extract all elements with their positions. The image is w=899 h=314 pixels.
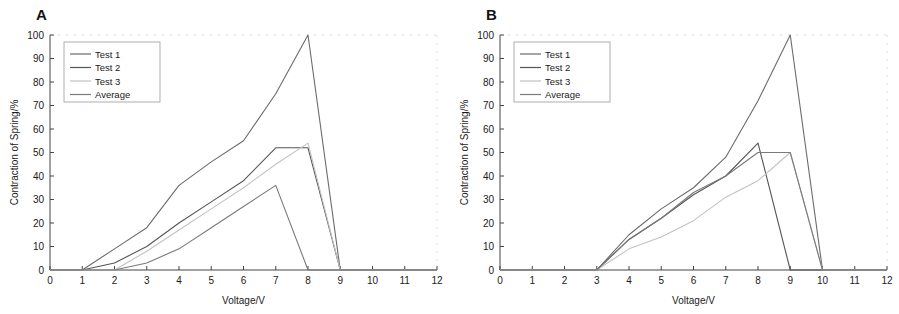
y-tick-label: 0 <box>488 265 494 276</box>
x-tick-label: 7 <box>723 275 729 286</box>
y-tick-label: 80 <box>33 77 45 88</box>
x-tick-label: 11 <box>850 275 861 286</box>
legend-label-test-3: Test 3 <box>545 76 570 87</box>
series-line-average <box>50 185 437 270</box>
y-tick-label: 80 <box>483 77 495 88</box>
y-tick-label: 10 <box>33 241 45 252</box>
y-tick-label: 0 <box>38 265 44 276</box>
y-tick-label: 70 <box>483 100 495 111</box>
x-tick-label: 8 <box>305 275 311 286</box>
x-tick-label: 9 <box>787 275 793 286</box>
y-axis-title: Contraction of Spring/% <box>459 100 470 206</box>
x-tick-label: 1 <box>529 275 535 286</box>
x-tick-label: 6 <box>241 275 247 286</box>
x-tick-label: 7 <box>273 275 279 286</box>
y-tick-label: 50 <box>33 147 45 158</box>
y-tick-label: 100 <box>27 30 44 41</box>
x-axis-title: Voltage/V <box>672 295 715 306</box>
y-axis-title: Contraction of Spring/% <box>9 100 20 206</box>
panel-b-plot: 01234567891011120102030405060708090100Vo… <box>450 0 899 314</box>
y-tick-label: 60 <box>483 124 495 135</box>
x-tick-label: 10 <box>817 275 829 286</box>
x-tick-label: 9 <box>337 275 343 286</box>
y-tick-label: 10 <box>483 241 495 252</box>
y-tick-label: 50 <box>483 147 495 158</box>
x-tick-label: 3 <box>594 275 600 286</box>
y-tick-label: 20 <box>33 218 45 229</box>
y-tick-label: 30 <box>33 194 45 205</box>
y-tick-label: 20 <box>483 218 495 229</box>
figure-container: A 01234567891011120102030405060708090100… <box>0 0 899 314</box>
x-tick-label: 12 <box>881 275 893 286</box>
legend-label-test-3: Test 3 <box>95 76 120 87</box>
panel-a-plot: 01234567891011120102030405060708090100Vo… <box>0 0 449 314</box>
y-tick-label: 60 <box>33 124 45 135</box>
y-tick-label: 40 <box>33 171 45 182</box>
x-tick-label: 2 <box>562 275 568 286</box>
series-line-test-2 <box>500 143 887 270</box>
x-tick-label: 5 <box>658 275 664 286</box>
legend-label-average: Average <box>95 89 130 100</box>
y-tick-label: 100 <box>477 30 494 41</box>
x-tick-label: 2 <box>112 275 118 286</box>
x-axis-title: Voltage/V <box>222 295 265 306</box>
x-tick-label: 10 <box>367 275 379 286</box>
x-tick-label: 12 <box>431 275 443 286</box>
legend-label-test-2: Test 2 <box>545 62 570 73</box>
x-tick-label: 1 <box>79 275 85 286</box>
x-tick-label: 5 <box>208 275 214 286</box>
series-line-test-3 <box>500 153 887 271</box>
y-tick-label: 90 <box>483 53 495 64</box>
series-line-test-2 <box>50 148 437 270</box>
x-tick-label: 8 <box>755 275 761 286</box>
y-tick-label: 40 <box>483 171 495 182</box>
x-tick-label: 4 <box>626 275 632 286</box>
legend-label-average: Average <box>545 89 580 100</box>
series-line-average <box>500 153 887 271</box>
x-tick-label: 4 <box>176 275 182 286</box>
y-tick-label: 90 <box>33 53 45 64</box>
y-tick-label: 30 <box>483 194 495 205</box>
x-tick-label: 0 <box>47 275 53 286</box>
legend-label-test-2: Test 2 <box>95 62 120 73</box>
legend-label-test-1: Test 1 <box>95 49 120 60</box>
panel-b: B 01234567891011120102030405060708090100… <box>450 0 899 314</box>
x-tick-label: 6 <box>691 275 697 286</box>
x-tick-label: 3 <box>144 275 150 286</box>
panel-a: A 01234567891011120102030405060708090100… <box>0 0 449 314</box>
x-tick-label: 0 <box>497 275 503 286</box>
y-tick-label: 70 <box>33 100 45 111</box>
x-tick-label: 11 <box>400 275 411 286</box>
legend-label-test-1: Test 1 <box>545 49 570 60</box>
